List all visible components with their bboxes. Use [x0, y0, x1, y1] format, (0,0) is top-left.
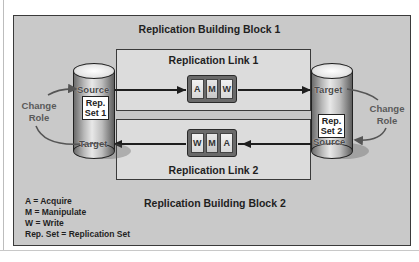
left-change-role-label: Change Role	[16, 100, 62, 124]
legend-item: W = Write	[25, 218, 130, 229]
change-role-line1: Change	[364, 103, 410, 115]
change-role-line2: Role	[16, 112, 62, 124]
right-change-role-label: Change Role	[364, 103, 410, 127]
legend-item: A = Acquire	[25, 196, 130, 207]
legend-item: Rep. Set = Replication Set	[25, 229, 130, 240]
legend-item: M = Manipulate	[25, 207, 130, 218]
legend: A = Acquire M = Manipulate W = Write Rep…	[25, 196, 130, 240]
block2-title: Replication Building Block 2	[144, 197, 286, 209]
change-role-line1: Change	[16, 100, 62, 112]
change-role-line2: Role	[364, 115, 410, 127]
